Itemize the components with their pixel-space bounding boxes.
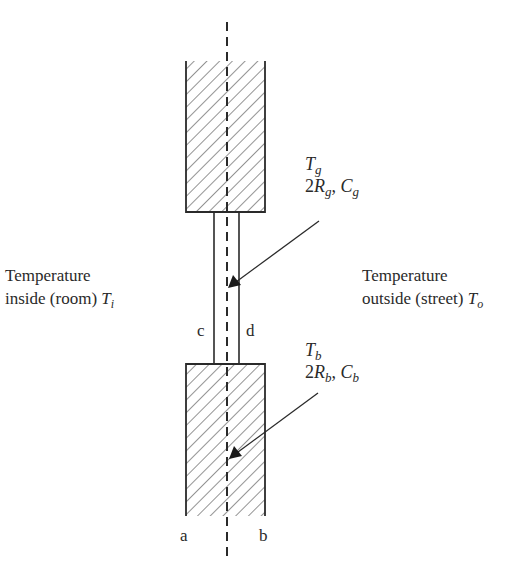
surface-label-c: c — [197, 321, 205, 340]
outside-temperature-label-line1: Temperature — [362, 266, 448, 285]
lower-wall-block — [186, 364, 265, 516]
wall-resistance-capacity-label: 2Rb, Cb — [305, 362, 360, 385]
wall-temperature-label: Tb — [305, 340, 322, 363]
inside-temperature-label-line1: Temperature — [5, 266, 91, 285]
surface-label-b: b — [259, 526, 268, 545]
glass-resistance-capacity-label: 2Rg, Cg — [305, 176, 360, 199]
outside-temperature-label-line2: outside (street) To — [362, 289, 483, 311]
glass-node-arrow — [228, 221, 319, 288]
inside-temperature-label-line2: inside (room) Ti — [5, 289, 114, 311]
glass-temperature-label: Tg — [305, 154, 322, 177]
surface-label-d: d — [246, 321, 255, 340]
upper-wall-block — [186, 61, 265, 212]
window-wall-diagram: Temperature inside (room) Ti Temperature… — [0, 0, 524, 579]
surface-label-a: a — [180, 526, 188, 545]
